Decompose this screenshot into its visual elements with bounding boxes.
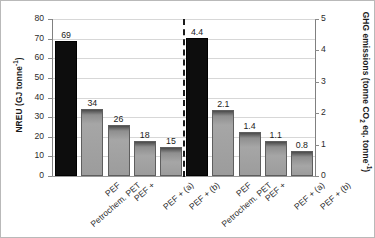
left-tick [48, 58, 52, 59]
left-tick-label: 0 [39, 170, 44, 180]
right-axis-line [315, 19, 316, 177]
right-tick-label: 4 [321, 44, 326, 54]
left-tick-label: 80 [34, 13, 44, 23]
bar-value-label: 69 [46, 30, 86, 40]
plot-area: 69342618154.42.11.41.10.8 [53, 19, 315, 176]
left-tick-label: 40 [34, 92, 44, 102]
right-tick-label: 0 [321, 170, 326, 180]
left-tick-label: 70 [34, 33, 44, 43]
right-tick-label: 3 [321, 76, 326, 86]
right-tick [315, 50, 319, 51]
left-tick [48, 137, 52, 138]
bar-value-label: 0.8 [282, 140, 322, 150]
left-tick-label: 30 [34, 111, 44, 121]
right-axis-title: GHG emissions (tonne CO2 eq. tonne-1) [359, 12, 372, 172]
left-tick [48, 78, 52, 79]
bar-value-label: 26 [99, 114, 139, 124]
bar [291, 151, 313, 176]
right-tick [315, 113, 319, 114]
group-divider [183, 19, 185, 177]
right-tick-label: 2 [321, 107, 326, 117]
left-tick [48, 98, 52, 99]
bar [160, 147, 182, 176]
left-tick-label: 20 [34, 131, 44, 141]
bar-value-label: 34 [72, 98, 112, 108]
left-tick-label: 10 [34, 150, 44, 160]
left-tick [48, 156, 52, 157]
right-tick [315, 176, 319, 177]
left-tick-label: 60 [34, 52, 44, 62]
right-tick-label: 5 [321, 13, 326, 23]
right-tick [315, 82, 319, 83]
right-tick-label: 1 [321, 139, 326, 149]
bar [212, 110, 234, 176]
right-tick [315, 19, 319, 20]
left-tick-label: 50 [34, 72, 44, 82]
bar-value-label: 2.1 [203, 99, 243, 109]
bar [134, 141, 156, 176]
left-tick [48, 117, 52, 118]
bar [55, 41, 77, 176]
chart-figure: NREU (GJ tonne-1) GHG emissions (tonne C… [0, 0, 375, 238]
left-tick [48, 19, 52, 20]
left-tick [48, 176, 52, 177]
left-axis-title: NREU (GJ tonne-1) [12, 20, 24, 170]
